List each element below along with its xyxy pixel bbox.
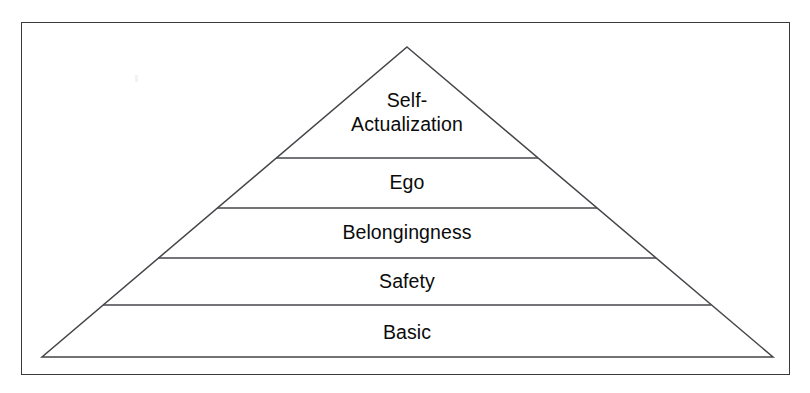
tier-label-safety: Safety: [237, 269, 577, 293]
figure-root: Self- Actualization Ego Belongingness Sa…: [0, 0, 810, 393]
tier-label-ego: Ego: [257, 170, 557, 194]
scan-artifact-speck: [135, 75, 138, 82]
tier-label-belongingness: Belongingness: [237, 220, 577, 244]
tier-label-basic: Basic: [237, 320, 577, 344]
tier-label-self-actualization: Self- Actualization: [257, 88, 557, 136]
